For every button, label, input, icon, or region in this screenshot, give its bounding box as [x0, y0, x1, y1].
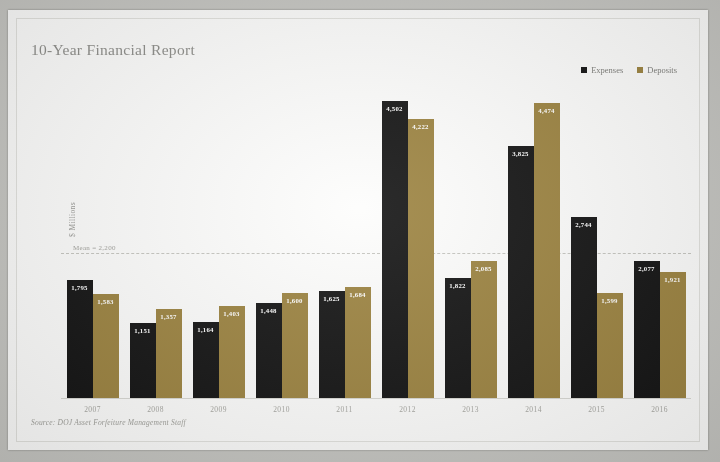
bar-expenses-2015[interactable]: 2,744	[571, 217, 597, 399]
bar-expenses-2010[interactable]: 1,448	[256, 303, 282, 399]
x-tick-2009: 2009	[187, 405, 250, 414]
x-axis-baseline	[61, 398, 691, 399]
x-tick-2015: 2015	[565, 405, 628, 414]
bar-group: 1,6251,684	[313, 81, 376, 399]
bar-value-label: 3,825	[508, 150, 534, 157]
bar-value-label: 1,164	[193, 326, 219, 333]
bar-group: 2,7441,599	[565, 81, 628, 399]
bar-group: 1,7951,583	[61, 81, 124, 399]
chart-legend: ExpensesDeposits	[581, 65, 677, 75]
bar-value-label: 1,357	[156, 313, 182, 320]
bar-deposits-2012[interactable]: 4,222	[408, 119, 434, 399]
bar-value-label: 1,684	[345, 291, 371, 298]
bar-value-label: 4,222	[408, 123, 434, 130]
bar-deposits-2016[interactable]: 1,921	[660, 272, 686, 399]
x-tick-2010: 2010	[250, 405, 313, 414]
bar-value-label: 4,474	[534, 107, 560, 114]
bar-deposits-2010[interactable]: 1,600	[282, 293, 308, 399]
bar-expenses-2014[interactable]: 3,825	[508, 146, 534, 399]
bar-value-label: 1,921	[660, 276, 686, 283]
bar-value-label: 1,599	[597, 297, 623, 304]
bar-value-label: 1,625	[319, 295, 345, 302]
bar-deposits-2007[interactable]: 1,583	[93, 294, 119, 399]
page-title: 10-Year Financial Report	[31, 41, 195, 59]
legend-item-label: Deposits	[647, 65, 677, 75]
bar-value-label: 1,448	[256, 307, 282, 314]
bar-value-label: 1,795	[67, 284, 93, 291]
bar-deposits-2011[interactable]: 1,684	[345, 287, 371, 399]
bar-deposits-2008[interactable]: 1,357	[156, 309, 182, 399]
bar-value-label: 1,600	[282, 297, 308, 304]
bar-value-label: 4,502	[382, 105, 408, 112]
x-tick-2007: 2007	[61, 405, 124, 414]
bar-deposits-2013[interactable]: 2,085	[471, 261, 497, 399]
bar-value-label: 1,583	[93, 298, 119, 305]
x-tick-2008: 2008	[124, 405, 187, 414]
bar-expenses-2009[interactable]: 1,164	[193, 322, 219, 399]
slide-card: 10-Year Financial Report ExpensesDeposit…	[8, 10, 708, 450]
bar-value-label: 1,822	[445, 282, 471, 289]
x-tick-2014: 2014	[502, 405, 565, 414]
bar-value-label: 2,077	[634, 265, 660, 272]
bar-group: 1,8222,085	[439, 81, 502, 399]
bar-expenses-2008[interactable]: 1,151	[130, 323, 156, 399]
legend-item-label: Expenses	[591, 65, 623, 75]
bar-group: 4,5024,222	[376, 81, 439, 399]
legend-item-deposits: Deposits	[637, 65, 677, 75]
bar-group: 3,8254,474	[502, 81, 565, 399]
legend-swatch-icon	[637, 67, 643, 73]
bar-value-label: 2,085	[471, 265, 497, 272]
x-tick-2012: 2012	[376, 405, 439, 414]
bar-deposits-2009[interactable]: 1,403	[219, 306, 245, 399]
bar-value-label: 2,744	[571, 221, 597, 228]
screenshot-stage: 10-Year Financial Report ExpensesDeposit…	[0, 0, 720, 462]
bar-expenses-2016[interactable]: 2,077	[634, 261, 660, 399]
bar-expenses-2012[interactable]: 4,502	[382, 101, 408, 399]
bar-groups: 1,7951,5831,1511,3571,1641,4031,4481,600…	[61, 81, 691, 399]
source-note: Source: DOJ Asset Forfeiture Management …	[31, 418, 186, 427]
plot-area: Mean = 2,200 1,7951,5831,1511,3571,1641,…	[61, 81, 691, 399]
bar-expenses-2013[interactable]: 1,822	[445, 278, 471, 399]
bar-group: 1,1511,357	[124, 81, 187, 399]
x-tick-2013: 2013	[439, 405, 502, 414]
x-axis-ticks: 2007200820092010201120122013201420152016	[61, 405, 691, 414]
bar-deposits-2015[interactable]: 1,599	[597, 293, 623, 399]
bar-group: 2,0771,921	[628, 81, 691, 399]
bar-value-label: 1,151	[130, 327, 156, 334]
bar-expenses-2007[interactable]: 1,795	[67, 280, 93, 399]
bar-expenses-2011[interactable]: 1,625	[319, 291, 345, 399]
slide-card-inner: 10-Year Financial Report ExpensesDeposit…	[16, 18, 700, 442]
x-tick-2011: 2011	[313, 405, 376, 414]
bar-group: 1,4481,600	[250, 81, 313, 399]
bar-deposits-2014[interactable]: 4,474	[534, 103, 560, 399]
bar-value-label: 1,403	[219, 310, 245, 317]
legend-item-expenses: Expenses	[581, 65, 623, 75]
bar-group: 1,1641,403	[187, 81, 250, 399]
x-tick-2016: 2016	[628, 405, 691, 414]
legend-swatch-icon	[581, 67, 587, 73]
